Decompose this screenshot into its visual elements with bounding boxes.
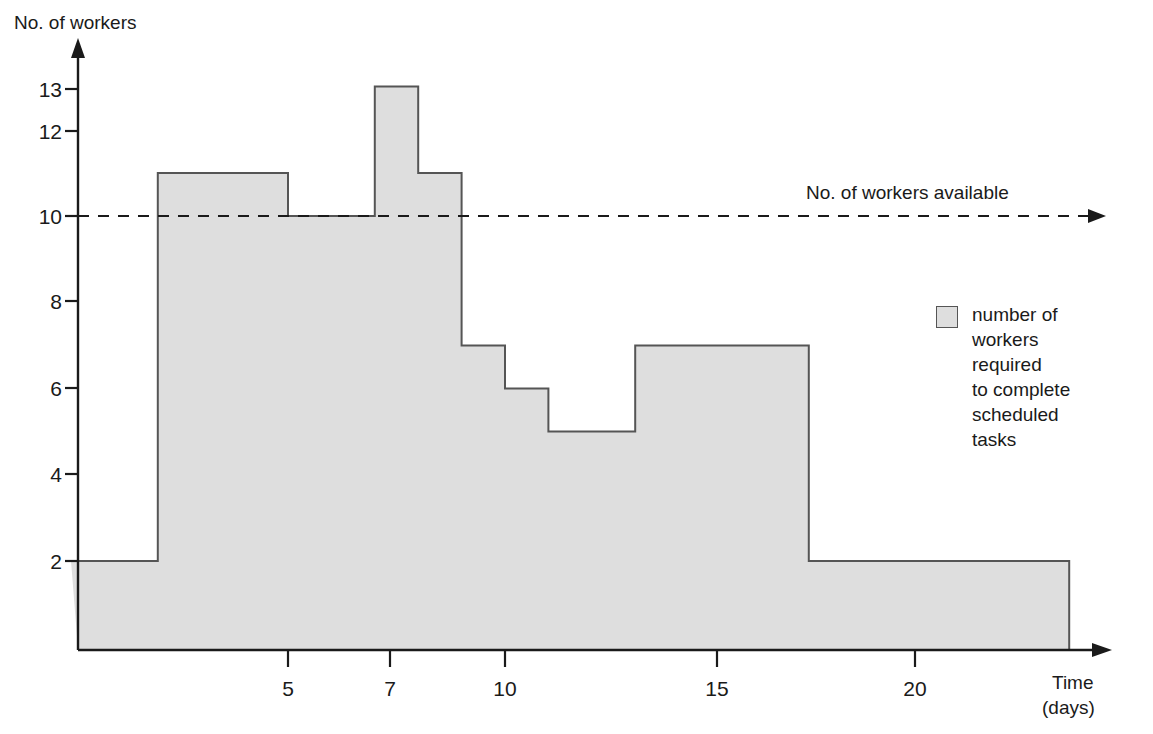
legend-line-1: number of (972, 302, 1152, 327)
x-axis-arrowhead (1092, 643, 1112, 657)
legend-line-5: scheduled (972, 402, 1152, 427)
legend-line-4: to complete (972, 377, 1152, 402)
legend-line-2: workers (972, 327, 1152, 352)
legend-line-6: tasks (972, 427, 1152, 452)
threshold-line-arrowhead (1088, 209, 1106, 223)
y-axis-arrowhead (71, 38, 85, 58)
chart-root: No. of workers Time (days) No. of worker… (0, 0, 1153, 734)
step-area-series (71, 87, 1069, 649)
legend-swatch-icon (936, 306, 958, 328)
legend-entry-label: number of workers required to complete s… (972, 302, 1152, 452)
legend-line-3: required (972, 352, 1152, 377)
